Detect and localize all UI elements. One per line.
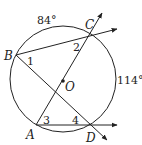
geometry-diagram: B C A D O 1 2 3 4 84° 114° bbox=[0, 0, 142, 145]
angle-label-3: 3 bbox=[43, 114, 50, 127]
arc-label-bc: 84° bbox=[37, 14, 57, 27]
ray-bc bbox=[16, 29, 117, 55]
diagram-svg: B C A D O 1 2 3 4 84° 114° bbox=[0, 0, 142, 145]
arc-label-cd: 114° bbox=[117, 74, 142, 87]
angle-label-4: 4 bbox=[72, 114, 79, 127]
point-label-d: D bbox=[85, 131, 96, 145]
angle-label-2: 2 bbox=[73, 41, 80, 54]
point-label-c: C bbox=[85, 18, 94, 32]
point-label-b: B bbox=[3, 49, 13, 63]
point-label-o: O bbox=[65, 80, 75, 94]
point-label-a: A bbox=[25, 128, 35, 142]
angle-label-1: 1 bbox=[27, 55, 34, 68]
